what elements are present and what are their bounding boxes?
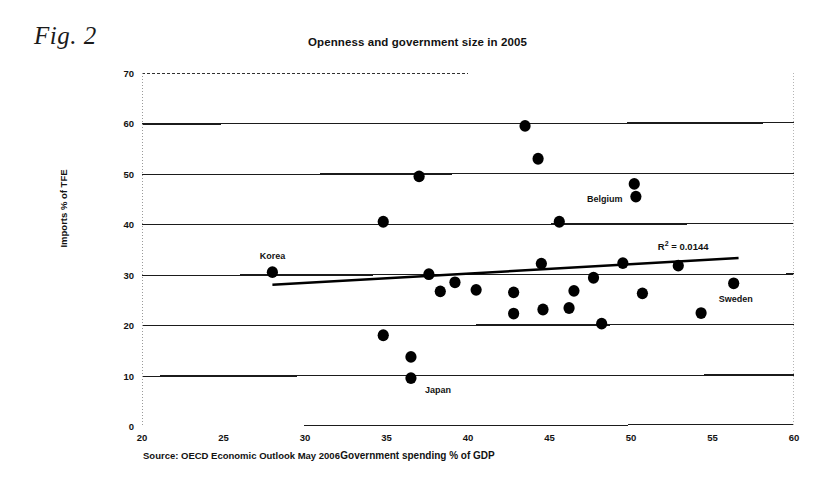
data-point-15	[537, 304, 548, 316]
data-point-8	[449, 276, 460, 288]
point-label-korea: Korea	[260, 251, 286, 261]
gridline-60	[142, 123, 794, 124]
y-axis-title: Imports % of TFE	[58, 139, 69, 279]
data-point-japan	[405, 372, 416, 384]
r-squared-value: = 0.0144	[669, 242, 709, 253]
chart-figure: Openness and government size in 2005 Imp…	[0, 0, 835, 485]
gridline-10	[142, 375, 794, 376]
data-point-5	[414, 170, 425, 182]
data-point-21	[617, 257, 628, 269]
x-tick-20: 20	[122, 432, 162, 443]
data-point-25	[673, 260, 684, 272]
x-axis-title: Government spending % of GDP	[0, 450, 835, 461]
data-point-7	[435, 285, 446, 297]
gridlines	[142, 73, 794, 376]
data-point-3	[405, 351, 416, 363]
data-point-20	[596, 318, 607, 330]
y-tick-60: 60	[94, 118, 134, 129]
y-tick-50: 50	[94, 168, 134, 179]
data-point-11	[508, 308, 519, 320]
x-tick-55: 55	[693, 432, 733, 443]
data-point-13	[532, 153, 543, 165]
y-tick-0: 0	[94, 421, 134, 432]
y-tick-70: 70	[94, 68, 134, 79]
r-squared-annotation: R2 = 0.0144	[658, 240, 709, 252]
data-point-1	[378, 216, 389, 228]
x-tick-50: 50	[611, 432, 651, 443]
data-point-24	[637, 287, 648, 299]
x-tick-45: 45	[530, 432, 570, 443]
y-tick-40: 40	[94, 219, 134, 230]
data-point-12	[519, 120, 530, 132]
source-note: Source: OECD Economic Outlook May 2006	[143, 450, 340, 461]
data-point-sweden	[728, 277, 739, 289]
y-tick-20: 20	[94, 320, 134, 331]
data-point-16	[554, 216, 565, 228]
data-point-18	[568, 285, 579, 297]
chart-title: Openness and government size in 2005	[0, 36, 835, 48]
data-point-belgium	[630, 191, 641, 203]
y-tick-10: 10	[94, 370, 134, 381]
data-point-26	[695, 307, 706, 319]
r-squared-prefix: R	[658, 242, 665, 253]
y-tick-30: 30	[94, 269, 134, 280]
data-point-korea	[267, 266, 278, 278]
data-point-6	[423, 268, 434, 280]
x-tick-35: 35	[367, 432, 407, 443]
gridline-20	[142, 325, 794, 326]
point-label-sweden: Sweden	[719, 294, 753, 304]
gridline-50	[142, 173, 794, 174]
gridline-40	[142, 224, 794, 225]
x-tick-60: 60	[774, 432, 814, 443]
data-point-17	[563, 302, 574, 314]
data-point-22	[629, 178, 640, 190]
x-axis-line	[142, 425, 794, 427]
x-tick-30: 30	[285, 432, 325, 443]
x-tick-40: 40	[448, 432, 488, 443]
point-label-belgium: Belgium	[587, 194, 623, 204]
data-point-14	[536, 258, 547, 270]
trendline-segment	[272, 258, 738, 285]
trendline	[272, 258, 738, 285]
data-point-2	[378, 329, 389, 341]
data-point-19	[588, 272, 599, 284]
gridline-70	[142, 73, 794, 74]
point-label-japan: Japan	[425, 385, 451, 395]
data-point-10	[508, 286, 519, 298]
x-tick-25: 25	[204, 432, 244, 443]
data-point-9	[471, 284, 482, 296]
